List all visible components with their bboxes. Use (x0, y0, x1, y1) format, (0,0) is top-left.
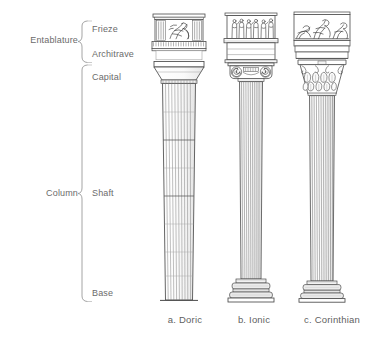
corinthian-frieze (294, 14, 350, 40)
brace-ticks (87, 21, 92, 302)
doric-architrave-face (156, 51, 202, 60)
doric-frieze (155, 19, 203, 41)
doric-shaft (163, 83, 196, 300)
column-corinthian (294, 12, 350, 302)
column-doric (152, 14, 206, 300)
doric-abacus (154, 62, 204, 68)
corinthian-shaft (310, 96, 335, 281)
ionic-capital-volutes (230, 66, 272, 79)
ionic-frieze (227, 16, 275, 39)
ionic-shaft (240, 82, 263, 279)
doric-cornice (153, 14, 205, 19)
brace-entablature (78, 21, 87, 63)
corinthian-capital-acanthus (300, 65, 344, 96)
doric-necking (161, 80, 197, 83)
corinthian-architrave (294, 40, 350, 58)
ionic-architrave (225, 43, 277, 63)
ionic-capital-collar (238, 79, 264, 82)
corinthian-base (299, 281, 345, 302)
corinthian-abacus (298, 60, 346, 65)
ionic-frieze-base-band (224, 39, 278, 43)
doric-architrave (152, 41, 206, 50)
orders-illustration (0, 0, 374, 337)
doric-capital-echinus (154, 67, 204, 80)
column-ionic (224, 13, 278, 302)
brace-column (78, 65, 87, 302)
ionic-base (228, 279, 274, 302)
ionic-abacus (228, 63, 274, 66)
orders-diagram: Entablature Column Frieze Architrave Cap… (0, 0, 374, 337)
